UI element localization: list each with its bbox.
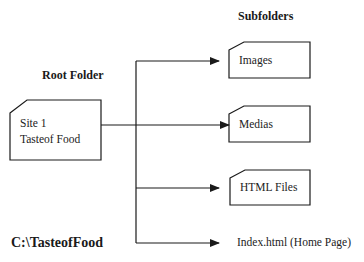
subfolders-heading: Subfolders [238, 10, 293, 22]
root-folder-heading: Root Folder [42, 69, 104, 81]
root-folder-line2: Tasteof Food [20, 131, 80, 147]
subfolder-medias-label: Medias [239, 119, 273, 131]
file-index-html-label: Index.html (Home Page) [237, 237, 351, 249]
root-folder-line1: Site 1 [20, 115, 80, 131]
root-folder-node: Site 1 Tasteof Food [20, 115, 80, 147]
subfolder-html-files-label: HTML Files [240, 182, 297, 194]
root-path-label: C:\TasteofFood [11, 236, 103, 250]
subfolder-images-label: Images [239, 55, 272, 67]
